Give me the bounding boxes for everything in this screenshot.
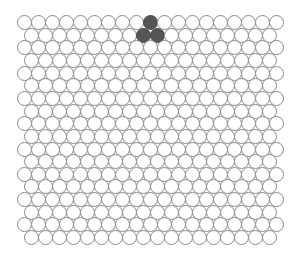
empty-cell[interactable] (80, 230, 95, 245)
empty-cell[interactable] (248, 230, 263, 245)
empty-cell[interactable] (94, 230, 109, 245)
empty-cell[interactable] (108, 230, 123, 245)
game-board (0, 0, 303, 257)
empty-cell[interactable] (150, 230, 165, 245)
empty-cell[interactable] (66, 230, 81, 245)
empty-cell[interactable] (178, 230, 193, 245)
empty-cell[interactable] (136, 230, 151, 245)
empty-cell[interactable] (262, 230, 277, 245)
empty-cell[interactable] (38, 230, 53, 245)
empty-cell[interactable] (122, 230, 137, 245)
empty-cell[interactable] (234, 230, 249, 245)
empty-cell[interactable] (52, 230, 67, 245)
empty-cell[interactable] (220, 230, 235, 245)
empty-cell[interactable] (164, 230, 179, 245)
empty-cell[interactable] (206, 230, 221, 245)
empty-cell[interactable] (24, 230, 39, 245)
empty-cell[interactable] (192, 230, 207, 245)
